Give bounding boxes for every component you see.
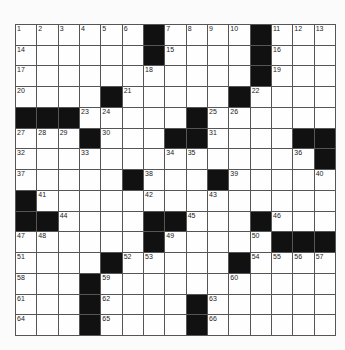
grid-cell[interactable]: 2: [37, 25, 57, 45]
grid-cell[interactable]: [144, 87, 164, 107]
grid-cell[interactable]: 58: [16, 274, 36, 294]
grid-cell[interactable]: [315, 191, 335, 211]
grid-cell[interactable]: [208, 212, 228, 232]
grid-cell[interactable]: [37, 295, 57, 315]
grid-cell[interactable]: [293, 212, 313, 232]
grid-cell[interactable]: [229, 315, 249, 335]
grid-cell[interactable]: [37, 66, 57, 86]
grid-cell[interactable]: [315, 46, 335, 66]
grid-cell[interactable]: 47: [16, 232, 36, 252]
grid-cell[interactable]: 56: [293, 253, 313, 273]
grid-cell[interactable]: [37, 46, 57, 66]
grid-cell[interactable]: [229, 232, 249, 252]
grid-cell[interactable]: [315, 274, 335, 294]
grid-cell[interactable]: [315, 108, 335, 128]
grid-cell[interactable]: [187, 232, 207, 252]
grid-cell[interactable]: [187, 191, 207, 211]
grid-cell[interactable]: [187, 46, 207, 66]
grid-cell[interactable]: [123, 46, 143, 66]
grid-cell[interactable]: [251, 149, 271, 169]
grid-cell[interactable]: [123, 149, 143, 169]
grid-cell[interactable]: [293, 295, 313, 315]
grid-cell[interactable]: [123, 191, 143, 211]
grid-cell[interactable]: [165, 274, 185, 294]
grid-cell[interactable]: [37, 274, 57, 294]
grid-cell[interactable]: [144, 129, 164, 149]
grid-cell[interactable]: [293, 191, 313, 211]
grid-cell[interactable]: 59: [101, 274, 121, 294]
grid-cell[interactable]: [251, 274, 271, 294]
grid-cell[interactable]: [208, 66, 228, 86]
grid-cell[interactable]: [165, 295, 185, 315]
grid-cell[interactable]: 27: [16, 129, 36, 149]
grid-cell[interactable]: 34: [165, 149, 185, 169]
grid-cell[interactable]: [272, 191, 292, 211]
grid-cell[interactable]: 9: [208, 25, 228, 45]
grid-cell[interactable]: [208, 149, 228, 169]
grid-cell[interactable]: [272, 170, 292, 190]
grid-cell[interactable]: [144, 108, 164, 128]
grid-cell[interactable]: [293, 274, 313, 294]
grid-cell[interactable]: 36: [293, 149, 313, 169]
grid-cell[interactable]: [165, 191, 185, 211]
grid-cell[interactable]: [187, 253, 207, 273]
grid-cell[interactable]: 13: [315, 25, 335, 45]
grid-cell[interactable]: [229, 129, 249, 149]
grid-cell[interactable]: [37, 253, 57, 273]
grid-cell[interactable]: 30: [101, 129, 121, 149]
grid-cell[interactable]: 41: [37, 191, 57, 211]
grid-cell[interactable]: [315, 295, 335, 315]
grid-cell[interactable]: [251, 170, 271, 190]
grid-cell[interactable]: 37: [16, 170, 36, 190]
grid-cell[interactable]: [59, 253, 79, 273]
grid-cell[interactable]: [251, 191, 271, 211]
grid-cell[interactable]: [101, 149, 121, 169]
grid-cell[interactable]: 60: [229, 274, 249, 294]
grid-cell[interactable]: 23: [80, 108, 100, 128]
grid-cell[interactable]: [251, 295, 271, 315]
grid-cell[interactable]: 16: [272, 46, 292, 66]
grid-cell[interactable]: [272, 295, 292, 315]
grid-cell[interactable]: 51: [16, 253, 36, 273]
grid-cell[interactable]: 55: [272, 253, 292, 273]
grid-cell[interactable]: [251, 108, 271, 128]
grid-cell[interactable]: 52: [123, 253, 143, 273]
grid-cell[interactable]: [144, 274, 164, 294]
grid-cell[interactable]: 33: [80, 149, 100, 169]
grid-cell[interactable]: [208, 46, 228, 66]
grid-cell[interactable]: 45: [187, 212, 207, 232]
grid-cell[interactable]: [229, 191, 249, 211]
grid-cell[interactable]: [59, 232, 79, 252]
grid-cell[interactable]: [80, 66, 100, 86]
grid-cell[interactable]: [101, 191, 121, 211]
grid-cell[interactable]: [123, 108, 143, 128]
grid-cell[interactable]: [187, 274, 207, 294]
grid-cell[interactable]: 29: [59, 129, 79, 149]
grid-cell[interactable]: [59, 295, 79, 315]
grid-cell[interactable]: 38: [144, 170, 164, 190]
grid-cell[interactable]: [123, 212, 143, 232]
grid-cell[interactable]: 22: [251, 87, 271, 107]
grid-cell[interactable]: 54: [251, 253, 271, 273]
grid-cell[interactable]: 32: [16, 149, 36, 169]
grid-cell[interactable]: [165, 108, 185, 128]
grid-cell[interactable]: [59, 274, 79, 294]
grid-cell[interactable]: 48: [37, 232, 57, 252]
grid-cell[interactable]: [101, 46, 121, 66]
grid-cell[interactable]: [123, 66, 143, 86]
grid-cell[interactable]: [272, 108, 292, 128]
grid-cell[interactable]: 28: [37, 129, 57, 149]
grid-cell[interactable]: [229, 66, 249, 86]
grid-cell[interactable]: [59, 149, 79, 169]
grid-cell[interactable]: [144, 295, 164, 315]
grid-cell[interactable]: 42: [144, 191, 164, 211]
grid-cell[interactable]: [165, 253, 185, 273]
grid-cell[interactable]: [59, 46, 79, 66]
grid-cell[interactable]: 15: [165, 46, 185, 66]
grid-cell[interactable]: [165, 87, 185, 107]
grid-cell[interactable]: [80, 87, 100, 107]
grid-cell[interactable]: [293, 108, 313, 128]
grid-cell[interactable]: [80, 191, 100, 211]
grid-cell[interactable]: [80, 253, 100, 273]
grid-cell[interactable]: 35: [187, 149, 207, 169]
